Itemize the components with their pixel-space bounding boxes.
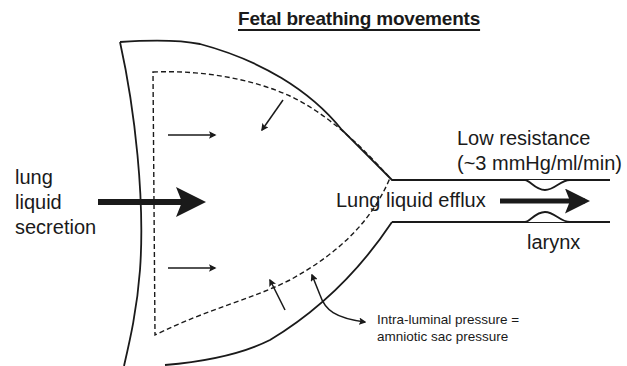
pressure-label-line2: amniotic sac pressure: [377, 328, 519, 345]
secretion-label-line2: liquid: [15, 190, 96, 215]
outward-arrow-left: [270, 280, 285, 310]
resistance-label: Low resistance (~3 mmHg/ml/min): [457, 126, 622, 176]
pressure-label-line1: Intra-luminal pressure =: [377, 311, 519, 328]
larynx-label: larynx: [527, 230, 580, 255]
larynx-upper: [525, 180, 570, 190]
fetal-breathing-diagram: Fetal breathing movements lung liquid se…: [0, 0, 627, 366]
resistance-label-line2: (~3 mmHg/ml/min): [457, 151, 622, 176]
pressure-label: Intra-luminal pressure = amniotic sac pr…: [377, 311, 519, 345]
efflux-label: Lung liquid efflux: [336, 188, 486, 213]
secretion-label-line1: lung: [15, 165, 96, 190]
larynx-lower: [525, 212, 570, 222]
secretion-label: lung liquid secretion: [15, 165, 96, 240]
inward-arrow-diagonal: [262, 100, 283, 130]
resistance-label-line1: Low resistance: [457, 126, 622, 151]
secretion-label-line3: secretion: [15, 215, 96, 240]
diagram-title: Fetal breathing movements: [238, 8, 480, 30]
